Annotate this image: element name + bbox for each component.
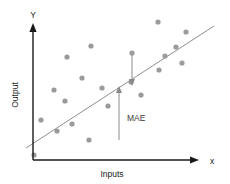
data-point — [162, 53, 167, 58]
data-point — [138, 92, 143, 97]
data-point — [69, 121, 74, 126]
y-axis-tip-label: Y — [30, 10, 36, 20]
data-point — [129, 50, 134, 55]
y-axis-title: Output — [10, 82, 20, 108]
data-point — [183, 29, 188, 34]
scatter-points — [31, 19, 188, 157]
data-point — [64, 54, 69, 59]
x-axis-tip-label: x — [210, 156, 215, 166]
data-point — [38, 117, 43, 122]
residual-arrow-up — [116, 86, 122, 140]
x-axis-title: Inputs — [100, 169, 123, 179]
data-point — [99, 85, 104, 90]
data-point — [86, 137, 91, 142]
data-point — [88, 43, 93, 48]
data-point — [54, 128, 59, 133]
data-point — [156, 67, 161, 72]
y-axis — [29, 23, 36, 160]
data-point — [62, 98, 67, 103]
data-point — [105, 103, 110, 108]
data-point — [179, 60, 184, 65]
mae-regression-diagram: Y x Output Inputs MAE — [0, 0, 230, 184]
diagram-canvas: Y x Output Inputs MAE — [0, 0, 230, 184]
data-point — [31, 152, 36, 157]
x-axis — [33, 156, 199, 163]
data-point — [79, 75, 84, 80]
data-point — [155, 19, 160, 24]
mae-annotation-label: MAE — [127, 113, 146, 123]
data-point — [51, 87, 56, 92]
regression-line — [26, 26, 214, 148]
data-point — [173, 44, 178, 49]
